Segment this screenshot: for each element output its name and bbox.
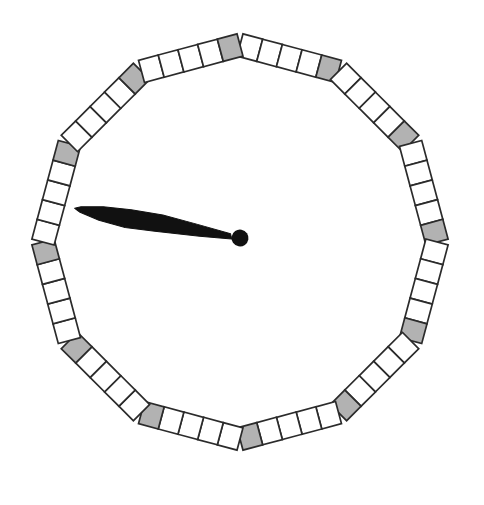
spinner-pointer[interactable] xyxy=(73,199,234,246)
spinner[interactable] xyxy=(73,199,250,249)
spinner-pivot-dot xyxy=(230,228,250,248)
board-svg xyxy=(0,0,484,505)
game-board-canvas xyxy=(0,0,484,505)
